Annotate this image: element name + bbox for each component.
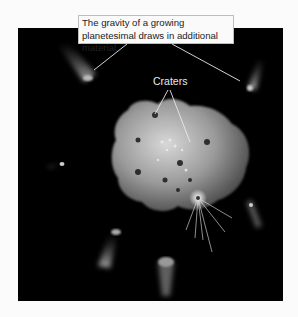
planetesimal bbox=[112, 99, 249, 211]
planetesimal-illustration bbox=[0, 0, 298, 317]
craters-label: Craters bbox=[153, 75, 187, 87]
gravity-callout: The gravity of a growing planetesimal dr… bbox=[78, 15, 234, 44]
